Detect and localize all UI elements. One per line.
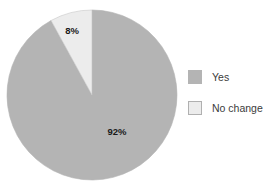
slice-label-no-change: 8% <box>65 25 79 36</box>
legend-item-no-change[interactable]: No change <box>188 101 275 115</box>
legend-label-no-change: No change <box>212 101 263 115</box>
legend-swatch-yes <box>188 70 202 84</box>
legend-label-yes: Yes <box>212 70 229 84</box>
legend-swatch-no-change <box>188 101 202 115</box>
slice-label-yes: 92% <box>107 126 127 137</box>
chart-legend: Yes No change <box>188 70 275 132</box>
legend-item-yes[interactable]: Yes <box>188 70 275 84</box>
pie-chart-figure: 8% 92% Yes No change <box>0 0 275 195</box>
